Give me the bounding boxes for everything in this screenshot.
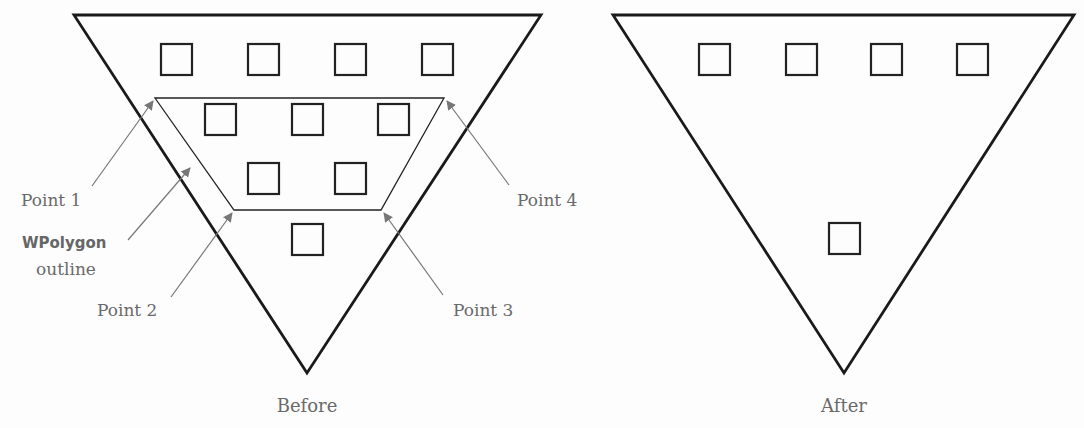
square xyxy=(957,44,988,75)
square xyxy=(292,104,323,135)
after-squares xyxy=(699,44,988,254)
point1-label: Point 1 xyxy=(21,190,81,210)
after-panel: After xyxy=(613,15,1074,416)
square xyxy=(829,223,860,254)
diagram-canvas: Point 1 WPolygon outline Point 2 Point 3… xyxy=(0,0,1084,428)
point1-leader-arrow xyxy=(92,101,153,186)
before-panel: Point 1 WPolygon outline Point 2 Point 3… xyxy=(21,15,577,416)
after-caption: After xyxy=(820,395,867,416)
before-caption: Before xyxy=(277,395,338,416)
square xyxy=(378,104,409,135)
before-squares xyxy=(161,44,453,255)
square xyxy=(422,44,453,75)
square xyxy=(699,44,730,75)
square xyxy=(335,44,366,75)
square xyxy=(205,104,236,135)
square xyxy=(292,224,323,255)
square xyxy=(335,163,366,194)
outline-label: outline xyxy=(36,259,96,279)
square xyxy=(161,44,192,75)
outline-leader-arrow xyxy=(128,168,190,240)
square xyxy=(871,44,902,75)
square xyxy=(248,44,279,75)
square xyxy=(786,44,817,75)
wpolygon-outline xyxy=(155,98,444,210)
point3-leader-arrow xyxy=(384,213,443,295)
point2-leader-arrow xyxy=(171,213,232,297)
square xyxy=(248,163,279,194)
point2-label: Point 2 xyxy=(97,300,157,320)
point3-label: Point 3 xyxy=(453,300,513,320)
point4-label: Point 4 xyxy=(517,190,577,210)
wpolygon-label: WPolygon xyxy=(22,234,107,252)
after-triangle xyxy=(613,15,1074,373)
